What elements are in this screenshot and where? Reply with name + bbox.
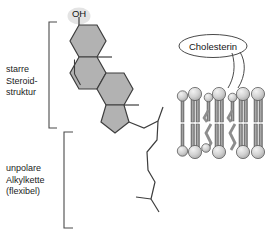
upper-leaflet: [177, 87, 264, 122]
phospholipid-head: [177, 146, 187, 156]
phospholipid-head: [188, 145, 201, 158]
label-steroid-structure: starre Steroid- struktur: [6, 64, 38, 99]
callout-label: Cholesterin: [189, 41, 237, 52]
phospholipid-head: [236, 145, 249, 158]
bracket-alkyl: [64, 132, 73, 228]
phospholipid-head: [212, 145, 225, 158]
ring-d: [101, 105, 129, 133]
phospholipid-head: [236, 87, 249, 100]
phospholipid-head: [177, 91, 187, 101]
steroid-ring-system: OH: [68, 8, 140, 134]
phospholipid-head: [188, 87, 201, 100]
cholesterol-head: [202, 144, 211, 153]
figure-canvas: OH Cholesterin: [0, 0, 277, 235]
ring-a: [70, 25, 106, 57]
cholesterol-diagram: OH Cholesterin: [0, 0, 277, 235]
hydroxyl-label: OH: [72, 8, 86, 19]
label-alkyl-chain: unpolare Alkylkette (flexibel): [6, 163, 45, 198]
cholesterol-head: [204, 93, 213, 102]
phospholipid-head: [251, 87, 264, 100]
callout-pointer: [228, 53, 234, 88]
phospholipid-head: [212, 87, 225, 100]
bracket-steroid: [49, 22, 57, 128]
alkyl-side-chain: [129, 107, 163, 212]
lipid-bilayer: [177, 87, 264, 158]
callout-tail: [238, 52, 244, 88]
phospholipid-head: [251, 145, 264, 158]
cholesterol-head-highlighted: [228, 93, 237, 102]
callout-cholesterin: Cholesterin: [179, 35, 247, 89]
lower-leaflet: [177, 124, 264, 159]
